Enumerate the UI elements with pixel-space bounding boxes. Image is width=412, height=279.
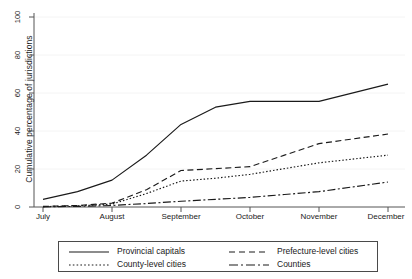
- legend-label-counties: Counties: [277, 259, 311, 270]
- y-axis: [29, 13, 34, 207]
- legend-label-prefecture-level-cities: Prefecture-level cities: [277, 246, 358, 257]
- legend-label-county-level-cities: County-level cities: [117, 259, 186, 270]
- chart-figure: Cumulative percentage of jurisdictions 0…: [0, 0, 412, 279]
- legend-key-dotted: [67, 259, 111, 270]
- legend-entry-county-level-cities: County-level cities: [67, 258, 186, 271]
- x-axis: [34, 207, 405, 212]
- legend-entry-prefecture-level-cities: Prefecture-level cities: [227, 245, 358, 258]
- legend-key-dash-dot: [227, 259, 271, 270]
- legend-key-solid: [67, 246, 111, 257]
- gridlines: [34, 17, 405, 169]
- legend-label-provincial-capitals: Provincial capitals: [117, 246, 185, 257]
- legend-entry-counties: Counties: [227, 258, 311, 271]
- legend-entry-provincial-capitals: Provincial capitals: [67, 245, 185, 258]
- series-line-prefecture-level-cities: [43, 134, 388, 206]
- plot-area: [0, 0, 412, 279]
- data-series-layer: [43, 84, 388, 207]
- legend-key-dashed: [227, 246, 271, 257]
- chart-legend: Provincial capitals Prefecture-level cit…: [58, 241, 378, 272]
